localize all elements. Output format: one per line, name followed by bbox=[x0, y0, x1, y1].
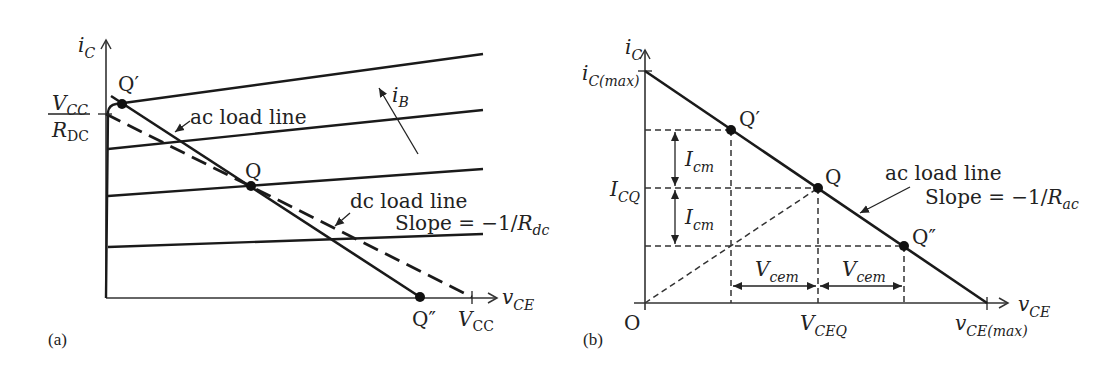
vcc-over-rdc-label: VCC RDC bbox=[48, 91, 90, 144]
vcem-right-label: Vcem bbox=[842, 257, 886, 285]
ac-load-line-pointer-b bbox=[860, 187, 910, 213]
dc-load-line-pointer bbox=[335, 213, 350, 226]
q-prime-label-b: Q′ bbox=[739, 107, 760, 131]
ac-load-line-pointer bbox=[175, 121, 190, 132]
x-axis-label-b: vCE bbox=[1018, 292, 1050, 320]
vcc-label: VCC bbox=[458, 307, 494, 334]
q-double-prime-point-b bbox=[899, 241, 909, 251]
ac-load-line-label-b: ac load line bbox=[885, 161, 1002, 185]
q-prime-point-a bbox=[117, 99, 127, 109]
vcem-left-label: Vcem bbox=[755, 257, 799, 285]
ic-max-label: iC(max) bbox=[582, 61, 640, 89]
dc-slope-label: Slope = −1/Rdc bbox=[395, 211, 550, 238]
icm-lower-label: Icm bbox=[684, 205, 714, 233]
icm-upper-label: Icm bbox=[684, 147, 714, 175]
y-axis-label-a: iC bbox=[78, 33, 95, 61]
origin-label: O bbox=[624, 311, 640, 335]
q-double-prime-label-b: Q″ bbox=[912, 225, 936, 249]
panel-b-label: (b) bbox=[583, 330, 603, 349]
ac-slope-label: Slope = −1/Rac bbox=[925, 185, 1079, 212]
vce-max-label: vCE(max) bbox=[955, 311, 1028, 339]
characteristic-curve-1 bbox=[116, 54, 483, 104]
q-label-a: Q bbox=[245, 159, 261, 183]
x-axis-label-a: vCE bbox=[502, 285, 534, 313]
q-double-prime-point-a bbox=[415, 292, 425, 302]
panel-a-label: (a) bbox=[48, 330, 67, 349]
vceq-label: VCEQ bbox=[800, 311, 847, 339]
dc-load-line-label-a: dc load line bbox=[350, 189, 467, 213]
panel-a: iC vCE VCC RDC VCC Q′ Q Q″ ac load line … bbox=[48, 33, 550, 349]
q-prime-point-b bbox=[726, 125, 736, 135]
q-label-b: Q bbox=[825, 165, 841, 189]
q-prime-label-a: Q′ bbox=[118, 72, 139, 96]
load-line-diagram: iC vCE VCC RDC VCC Q′ Q Q″ ac load line … bbox=[0, 0, 1097, 366]
icq-label: ICQ bbox=[609, 177, 641, 205]
panel-b: iC vCE iC(max) ICQ Icm Icm Vcem Vcem O V… bbox=[582, 35, 1079, 349]
q-double-prime-label-a: Q″ bbox=[412, 307, 436, 331]
y-axis-label-b: iC bbox=[625, 35, 642, 63]
ac-load-line-label-a: ac load line bbox=[190, 105, 307, 129]
ib-label: iB bbox=[392, 83, 409, 110]
saturation-edge bbox=[106, 104, 116, 298]
svg-text:RDC: RDC bbox=[51, 118, 89, 144]
characteristic-curve-4 bbox=[108, 234, 483, 247]
q-point-b bbox=[813, 183, 823, 193]
